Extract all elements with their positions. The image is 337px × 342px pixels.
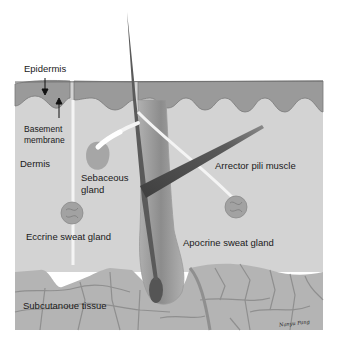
label-arrector-pili: Arrector pili muscle [215,160,296,171]
label-basement-membrane-1: Basement [24,124,62,134]
label-sebaceous-2: gland [81,184,104,195]
apocrine-sweat-gland [225,196,247,218]
label-apocrine: Apocrine sweat gland [183,237,274,248]
label-basement-membrane-2: membrane [24,135,65,145]
label-eccrine: Eccrine sweat gland [26,231,111,242]
label-dermis: Dermis [20,158,50,169]
label-subcutaneous: Subcutanoue tissue [23,300,106,311]
skin-diagram [0,0,337,342]
hair-bulb-papilla [149,277,163,303]
label-sebaceous-1: Sebaceous [81,172,129,183]
eccrine-sweat-gland [61,202,83,224]
label-epidermis: Epidermis [24,63,66,74]
